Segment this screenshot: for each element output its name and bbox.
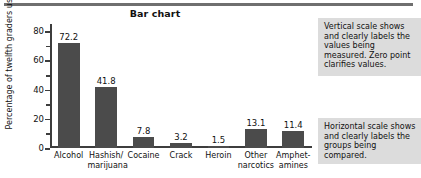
bar (208, 146, 230, 148)
x-label-line: Other (237, 151, 274, 161)
y-tick-label: 0 (4, 143, 44, 153)
bar-value-label: 3.2 (162, 132, 199, 142)
bar-value-label: 41.8 (87, 76, 124, 86)
bar (282, 131, 304, 148)
bar-slot (245, 24, 267, 148)
y-tick-label: 40 (4, 85, 44, 95)
y-tick-label: 80 (4, 26, 44, 36)
x-label-line: Crack (162, 151, 199, 161)
bar-value-label: 1.5 (200, 135, 237, 145)
y-tick-major (45, 148, 50, 150)
x-label-line: Hashish/ (87, 151, 124, 161)
x-label-line: Alcohol (50, 151, 87, 161)
bar-slot (208, 24, 230, 148)
bar-value-label: 13.1 (237, 118, 274, 128)
y-tick-minor (46, 133, 50, 135)
bar-slot (170, 24, 192, 148)
x-label-line: Heroin (200, 151, 237, 161)
x-label-line: Cocaine (125, 151, 162, 161)
x-category-label: Amphet-amines (275, 151, 312, 170)
chart-area: Percentage of twelfth graders using 0204… (0, 22, 314, 178)
x-category-label: Hashish/marijuana (87, 151, 124, 170)
bar-slot (58, 24, 80, 148)
x-category-label: Othernarcotics (237, 151, 274, 170)
bar (58, 43, 80, 148)
x-category-label: Alcohol (50, 151, 87, 161)
y-tick-label: 20 (4, 114, 44, 124)
x-category-label: Cocaine (125, 151, 162, 161)
y-tick-label: 60 (4, 55, 44, 65)
chart-title: Bar chart (0, 8, 310, 19)
y-tick-minor (46, 46, 50, 48)
x-category-label: Crack (162, 151, 199, 161)
bar-chart-figure: Bar chart Percentage of twelfth graders … (0, 0, 421, 178)
y-tick-major (45, 31, 50, 33)
x-label-line: amines (275, 161, 312, 171)
bar (245, 129, 267, 148)
bar-value-label: 7.8 (125, 126, 162, 136)
bar (133, 137, 155, 148)
bar-value-label: 11.4 (275, 120, 312, 130)
y-tick-minor (46, 75, 50, 77)
callout-horizontal-scale: Horizontal scale shows and clearly label… (318, 118, 421, 164)
bar (95, 87, 117, 148)
x-label-line: narcotics (237, 161, 274, 171)
y-tick-major (45, 90, 50, 92)
top-divider-rule (4, 3, 413, 6)
x-label-line: marijuana (87, 161, 124, 171)
callout-vertical-scale: Vertical scale shows and clearly labels … (318, 18, 421, 76)
x-axis-category-labels: AlcoholHashish/marijuanaCocaineCrackHero… (50, 151, 312, 178)
y-axis-tick-labels: 020406080 (0, 22, 44, 150)
bar-value-label: 72.2 (50, 32, 87, 42)
x-label-line: Amphet- (275, 151, 312, 161)
bars-container: 72.241.87.83.21.513.111.4 (50, 24, 312, 148)
bar (170, 143, 192, 148)
x-category-label: Heroin (200, 151, 237, 161)
y-tick-major (45, 119, 50, 121)
y-tick-major (45, 60, 50, 62)
y-tick-minor (46, 104, 50, 106)
